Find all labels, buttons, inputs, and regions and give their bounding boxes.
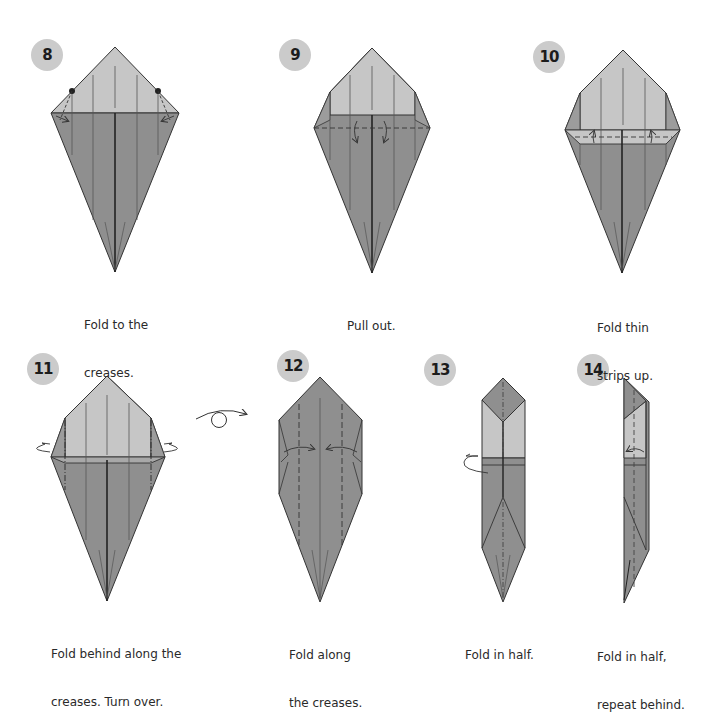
caption-line: Fold behind along the <box>51 646 181 662</box>
step-12-diagram <box>279 377 362 602</box>
step-badge-8: 8 <box>31 39 63 71</box>
step-10-caption: Fold thin strips up. <box>597 288 653 400</box>
step-11-diagram <box>37 376 178 601</box>
caption-line: Fold along <box>289 647 362 663</box>
caption-line: Fold to the <box>84 317 148 333</box>
step-9-caption: Pull out. <box>347 286 396 350</box>
caption-line: Fold in half, <box>597 649 685 665</box>
step-number: 8 <box>42 48 51 63</box>
step-badge-11: 11 <box>27 353 59 385</box>
step-badge-13: 13 <box>424 354 456 386</box>
step-13-caption: Fold in half. <box>465 615 534 679</box>
caption-line: Fold in half. <box>465 647 534 663</box>
caption-line: the creases. <box>289 695 362 711</box>
step-9-diagram <box>314 48 430 273</box>
step-number: 13 <box>431 363 450 378</box>
step-badge-12: 12 <box>277 350 309 382</box>
step-number: 9 <box>290 48 299 63</box>
caption-line: Pull out. <box>347 318 396 334</box>
caption-line: Fold thin <box>597 320 653 336</box>
caption-line: strips up. <box>597 368 653 384</box>
step-number: 11 <box>34 362 53 377</box>
caption-line: repeat behind. <box>597 697 685 713</box>
step-number: 12 <box>284 359 303 374</box>
step-12-caption: Fold along the creases. <box>289 615 362 716</box>
step-14-diagram <box>624 378 649 603</box>
step-number: 10 <box>540 50 559 65</box>
step-8-diagram <box>51 47 179 272</box>
step-8-caption: Fold to the creases. <box>84 285 148 397</box>
step-10-diagram <box>565 50 680 273</box>
step-13-diagram <box>464 378 525 602</box>
step-badge-10: 10 <box>533 41 565 73</box>
step-badge-9: 9 <box>279 39 311 71</box>
turn-over-symbol <box>196 410 246 427</box>
caption-line: creases. <box>84 365 148 381</box>
step-11-caption: Fold behind along the creases. Turn over… <box>51 614 181 716</box>
step-14-caption: Fold in half, repeat behind. <box>597 617 685 716</box>
caption-line: creases. Turn over. <box>51 694 181 710</box>
